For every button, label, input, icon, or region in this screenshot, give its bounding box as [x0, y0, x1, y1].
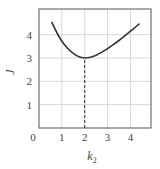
y-tick-label: 3	[27, 52, 33, 64]
x-tick-label: 3	[105, 131, 111, 143]
chart: 01234 1234 k2 J	[0, 0, 160, 169]
y-tick-label: 2	[27, 75, 33, 87]
y-axis-label: J	[3, 69, 17, 75]
x-axis-label: k2	[87, 149, 96, 165]
x-tick-label: 2	[82, 131, 88, 143]
x-tick-labels: 01234	[30, 131, 133, 143]
x-tick-label: 1	[59, 131, 65, 143]
x-tick-label: 4	[128, 131, 134, 143]
y-tick-label: 1	[27, 99, 33, 111]
x-tick-label: 0	[30, 131, 36, 143]
y-tick-labels: 1234	[27, 29, 33, 111]
y-tick-label: 4	[27, 29, 33, 41]
grid-lines	[39, 9, 151, 128]
j-curve	[52, 22, 140, 58]
plot-frame	[39, 9, 151, 128]
